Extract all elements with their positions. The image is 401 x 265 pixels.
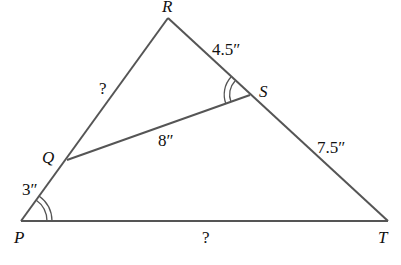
vertex-S-label: S [259, 82, 268, 101]
measure-QS: 8″ [158, 131, 174, 150]
vertex-T-label: T [378, 228, 389, 247]
measure-RS: 4.5″ [212, 40, 240, 59]
segment-QS [67, 95, 250, 160]
angle-mark-P-inner [36, 200, 47, 221]
similar-triangles-diagram: R S Q P T 4.5″ 7.5″ 8″ 3″ ? ? [0, 0, 401, 265]
side-RT [168, 18, 388, 221]
angle-mark-P-outer [39, 196, 52, 221]
vertex-R-label: R [161, 0, 173, 16]
diagram-canvas: R S Q P T 4.5″ 7.5″ 8″ 3″ ? ? [0, 0, 401, 265]
measure-ST: 7.5″ [317, 138, 345, 157]
angle-mark-S-inner [230, 81, 235, 102]
vertex-P-label: P [13, 228, 24, 247]
vertex-Q-label: Q [42, 148, 54, 167]
side-RP [21, 18, 168, 221]
measure-PQ: 3″ [22, 180, 38, 199]
measure-PT: ? [202, 228, 210, 247]
measure-RQ: ? [99, 79, 107, 98]
